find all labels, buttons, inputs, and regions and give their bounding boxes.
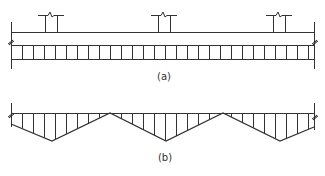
caption-b: (b)	[150, 153, 180, 163]
panel-b-triangular-diagram	[8, 103, 318, 141]
column-stub	[38, 12, 64, 32]
panel-a-slab-diagram	[8, 12, 318, 69]
sawtooth-outline	[11, 113, 314, 141]
column-break-icon	[266, 12, 292, 17]
structural-diagram	[0, 0, 325, 176]
column-supports	[38, 12, 292, 32]
column-break-icon	[151, 12, 177, 17]
band-hatching	[12, 45, 309, 60]
column-break-icon	[38, 12, 64, 17]
column-stub	[151, 12, 177, 32]
caption-a: (a)	[149, 72, 179, 82]
triangle-hatching	[12, 113, 309, 141]
column-stub	[266, 12, 292, 32]
